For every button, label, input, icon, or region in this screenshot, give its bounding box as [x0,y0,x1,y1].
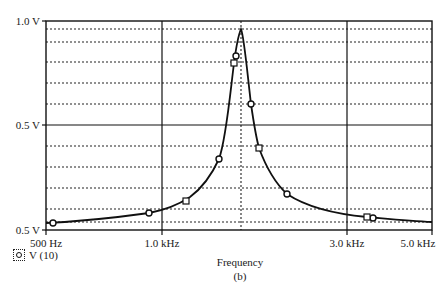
x-tick-label-1khz: 1.0 kHz [145,237,180,249]
y-tick-label-mid: 0.5 V [0,119,40,131]
legend-label: V (10) [29,249,58,261]
x-tick-label-500hz: 500 Hz [30,237,62,249]
grid-solid [46,21,432,230]
x-tick-label-3khz: 3.0 kHz [330,237,365,249]
x-axis-title: Frequency [217,256,263,268]
circle-markers [50,53,376,226]
square-markers [183,60,370,220]
figure-caption: (b) [234,270,247,282]
circle-marker-icon [13,249,25,261]
y-tick-label-bottom: 0.5 V [0,224,40,236]
legend: V (10) [13,249,58,261]
frequency-response-chart [0,0,447,298]
y-tick-label-top: 1.0 V [0,15,40,27]
x-tick-label-5khz: 5.0 kHz [401,237,436,249]
